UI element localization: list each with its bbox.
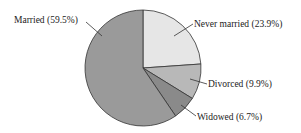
label-never-married: Never married (23.9%) <box>194 19 282 30</box>
label-widowed: Widowed (6.7%) <box>197 112 262 123</box>
pie-chart: Married (59.5%) Never married (23.9%) Di… <box>0 0 301 133</box>
leader-line-widowed <box>181 105 196 116</box>
slice-never-married <box>143 10 201 68</box>
label-divorced: Divorced (9.9%) <box>208 79 272 90</box>
label-married: Married (59.5%) <box>14 15 78 26</box>
pie-slices <box>85 10 201 126</box>
